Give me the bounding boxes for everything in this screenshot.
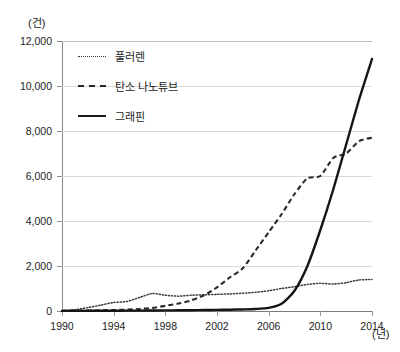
x-tick-mark	[320, 311, 321, 316]
y-tick-label: 4,000	[0, 215, 52, 227]
x-tick-mark	[165, 311, 166, 316]
legend-item-label: 풀러렌	[115, 48, 145, 64]
x-tick-label: 1994	[102, 320, 125, 332]
y-tick-label: 12,000	[0, 35, 52, 47]
series-line-fullerene	[62, 280, 372, 311]
y-tick-label: 8,000	[0, 125, 52, 137]
legend-item-label: 그래핀	[115, 108, 145, 124]
x-tick-label: 2002	[205, 320, 228, 332]
legend-item[interactable]: 풀러렌	[78, 48, 178, 64]
x-tick-mark	[372, 311, 373, 316]
x-tick-label: 1998	[154, 320, 177, 332]
legend-swatch-solid-icon	[78, 115, 106, 117]
x-tick-label: 2006	[257, 320, 280, 332]
line-chart: (건) (년) 02,0004,0006,0008,00010,00012,00…	[0, 0, 400, 352]
legend-item-label: 탄소 나노튜브	[115, 78, 178, 94]
legend-swatch-dashed-icon	[78, 85, 106, 87]
legend-item[interactable]: 그래핀	[78, 108, 178, 124]
y-tick-label: 2,000	[0, 260, 52, 272]
series-line-carbon-nanotube	[62, 138, 372, 311]
y-tick-label: 6,000	[0, 170, 52, 182]
y-tick-label: 10,000	[0, 80, 52, 92]
y-tick-label: 0	[0, 305, 52, 317]
y-axis-unit-label: (건)	[28, 14, 45, 30]
x-tick-label: 1990	[50, 320, 73, 332]
legend-swatch-dotted-icon	[78, 56, 106, 57]
x-tick-label: 2014	[360, 320, 383, 332]
x-tick-mark	[217, 311, 218, 316]
legend-item[interactable]: 탄소 나노튜브	[78, 78, 178, 94]
x-tick-label: 2010	[309, 320, 332, 332]
chart-legend: 풀러렌탄소 나노튜브그래핀	[78, 48, 178, 124]
x-tick-mark	[269, 311, 270, 316]
